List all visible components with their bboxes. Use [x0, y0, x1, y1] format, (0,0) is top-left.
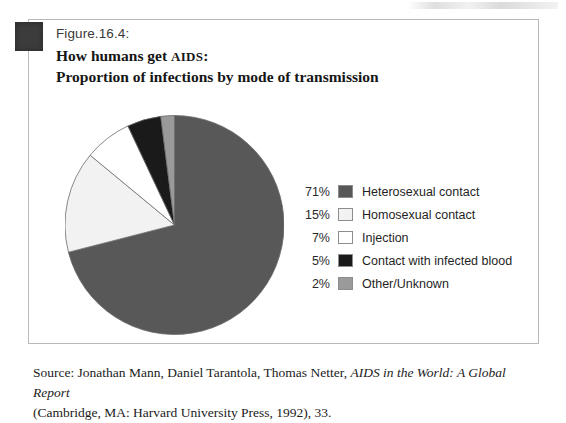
legend-label: Contact with infected blood	[362, 254, 512, 268]
legend-percent: 15%	[300, 208, 330, 222]
figure-title-aids-smallcaps: AIDS	[171, 49, 203, 64]
figure-title-suffix: :	[203, 47, 208, 64]
figure-label: Figure.16.4:	[56, 26, 129, 41]
legend-label: Other/Unknown	[362, 277, 449, 291]
chart-legend: 71% Heterosexual contact 15% Homosexual …	[300, 180, 515, 295]
legend-swatch-contact-with-infected-blood	[338, 254, 353, 267]
page-header-smudge	[408, 2, 558, 9]
figure-title-line-2: Proportion of infections by mode of tran…	[56, 68, 379, 86]
pie-slices	[65, 116, 284, 335]
legend-percent: 2%	[300, 277, 330, 291]
legend-swatch-homosexual-contact	[338, 208, 353, 221]
legend-item: 2% Other/Unknown	[300, 272, 515, 295]
figure-title-prefix: How humans get	[56, 47, 171, 64]
legend-item: 71% Heterosexual contact	[300, 180, 515, 203]
legend-label: Injection	[362, 231, 409, 245]
source-line-2: (Cambridge, MA: Harvard University Press…	[33, 403, 533, 423]
source-prefix: Source: Jonathan Mann, Daniel Tarantola,…	[33, 365, 350, 380]
legend-label: Homosexual contact	[362, 208, 475, 222]
pie-chart-svg	[65, 99, 284, 351]
legend-item: 15% Homosexual contact	[300, 203, 515, 226]
legend-percent: 7%	[300, 231, 330, 245]
legend-percent: 71%	[300, 185, 330, 199]
legend-item: 7% Injection	[300, 226, 515, 249]
source-citation: Source: Jonathan Mann, Daniel Tarantola,…	[33, 363, 533, 423]
figure-title-line-1: How humans get AIDS:	[56, 47, 208, 65]
legend-label: Heterosexual contact	[362, 185, 479, 199]
legend-percent: 5%	[300, 254, 330, 268]
legend-swatch-heterosexual-contact	[338, 185, 353, 198]
legend-swatch-other-unknown	[338, 277, 353, 290]
legend-swatch-injection	[338, 231, 353, 244]
legend-item: 5% Contact with infected blood	[300, 249, 515, 272]
corner-square-marker	[15, 22, 43, 51]
pie-chart	[65, 99, 284, 351]
